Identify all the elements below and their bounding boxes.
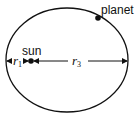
orbit-diagram: sun planet r1 r3 [0, 0, 137, 119]
r1-subscript: 1 [18, 60, 22, 69]
planet-dot [95, 15, 101, 21]
r3-label: r3 [72, 53, 81, 69]
orbit-ellipse [6, 8, 128, 112]
sun-dot [28, 58, 34, 64]
sun-label: sun [22, 44, 41, 58]
planet-label: planet [101, 3, 134, 17]
r3-subscript: 3 [77, 60, 81, 69]
r1-label: r1 [13, 53, 22, 69]
